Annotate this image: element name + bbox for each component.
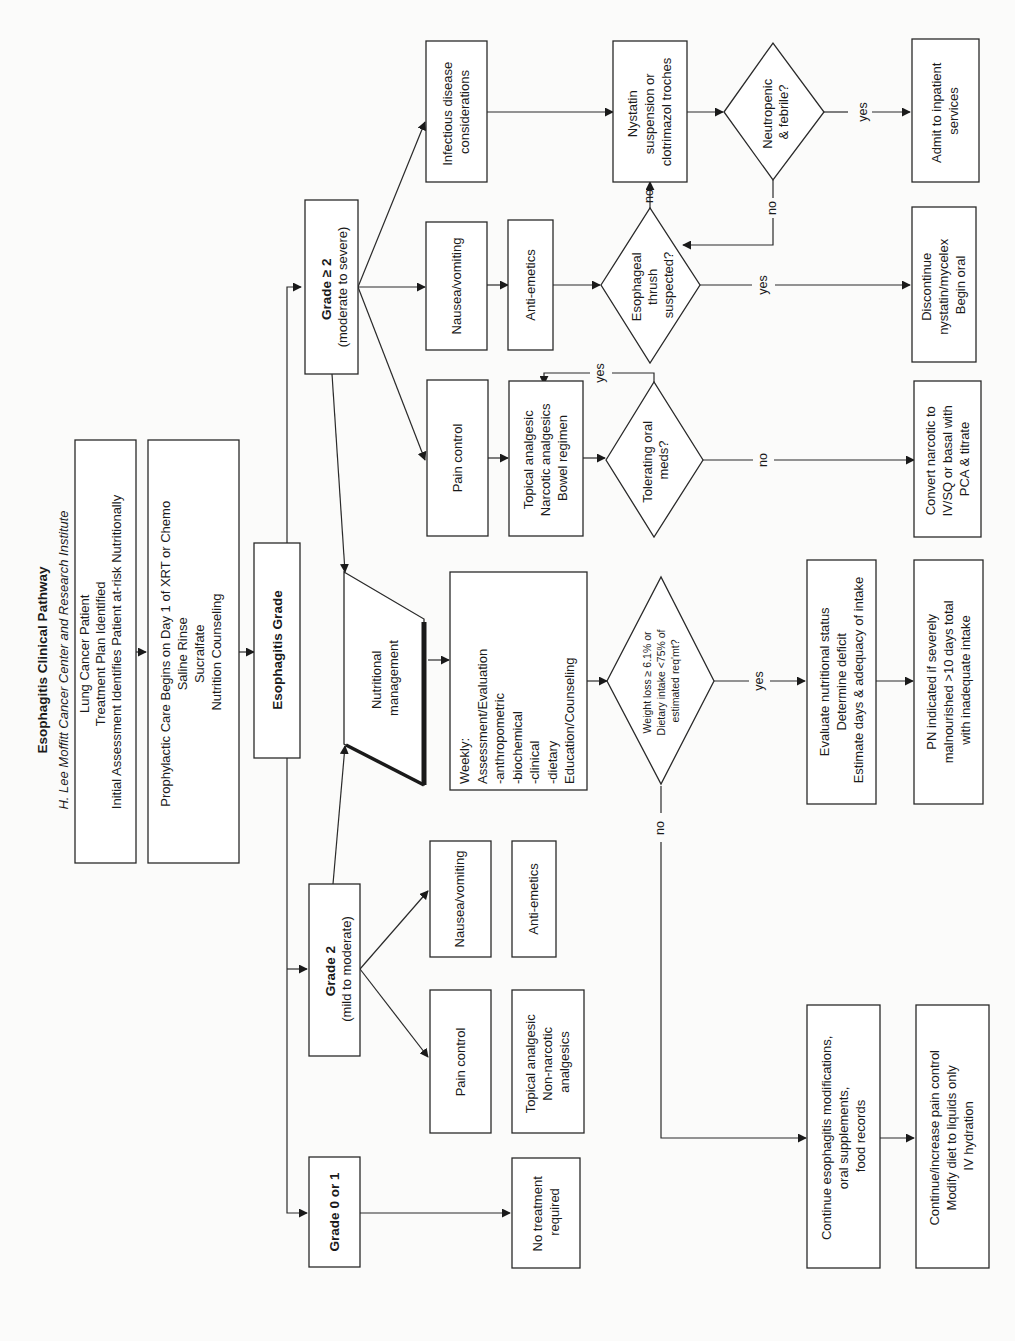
svg-text:Anti-emetics: Anti-emetics — [526, 863, 541, 935]
edge-label-neutropenic-yes: yes — [856, 102, 870, 121]
decision-weight-loss: Weight loss ≥ 6.1% or Dietary intake <75… — [607, 577, 714, 784]
node-nutritional-management: Nutritional management — [344, 572, 424, 785]
node-grade-severe: Grade ≥ 2 (moderate to severe) — [305, 200, 358, 374]
node-admit-inpatient: Admit to inpatient services — [912, 39, 979, 182]
node-evaluate-nutritional-status: Evaluate nutritional status Determine de… — [807, 560, 876, 804]
node-discontinue-nystatin: Discontinue nystatin/mycelex Begin oral — [912, 207, 976, 362]
edge-label-neutropenic-no: no — [765, 201, 779, 215]
node-pn-indicated: PN indicated if severely malnourished >1… — [914, 560, 983, 804]
node-analgesics-mild: Topical analgesic Non-narcotic analgesic… — [512, 990, 584, 1133]
svg-text:Grade 0 or 1: Grade 0 or 1 — [327, 1172, 342, 1251]
node-grade-mild: Grade 2 (mild to moderate) — [309, 884, 360, 1056]
svg-text:Pain control: Pain control — [453, 1028, 468, 1097]
node-pain-mild: Pain control — [430, 990, 491, 1133]
edge-label-weight-yes: yes — [752, 671, 766, 690]
svg-text:Pain control: Pain control — [450, 424, 465, 493]
svg-text:Neutropenic & febrile?: Neutropenic & febrile? — [760, 75, 791, 149]
decision-thrush: Esophageal thrush suspected? — [601, 208, 700, 363]
node-no-treatment: No treatment required — [512, 1158, 580, 1268]
pathway-header: Esophagitis Clinical Pathway H. Lee Moff… — [35, 510, 71, 809]
edge-label-thrush-no: no — [642, 189, 656, 203]
node-esophagitis-grade: Esophagitis Grade — [254, 543, 300, 758]
edge-label-weight-no: no — [653, 821, 667, 835]
node-antiemetics-mild: Anti-emetics — [512, 841, 556, 957]
page-subtitle: H. Lee Moffitt Cancer Center and Researc… — [56, 510, 71, 809]
node-analgesics-severe: Topical analgesic Narcotic analgesics Bo… — [509, 381, 583, 536]
node-nausea-severe: Nausea/vomiting — [426, 222, 487, 350]
svg-text:Nausea/vomiting: Nausea/vomiting — [449, 238, 464, 335]
edge-label-tolerating-yes: yes — [593, 363, 607, 382]
node-prophylactic-care: Prophylactic Care Begins on Day 1 of XRT… — [148, 440, 239, 863]
flowchart-canvas: Esophagitis Clinical Pathway H. Lee Moff… — [0, 0, 1015, 1341]
svg-text:Weight loss ≥ 6.1% or Di: Weight loss ≥ 6.1% or Dietary intake <75… — [641, 627, 681, 736]
node-infectious-disease: Infectious disease considerations — [426, 41, 487, 182]
page-title: Esophagitis Clinical Pathway — [35, 566, 50, 753]
node-convert-narcotic: Convert narcotic to IV/SQ or basal with … — [914, 381, 981, 537]
edge-label-tolerating-no: no — [756, 453, 770, 467]
decision-neutropenic: Neutropenic & febrile? — [724, 43, 824, 180]
svg-text:PN indicated if severely: PN indicated if severely malnourished >1… — [924, 597, 973, 764]
decision-tolerating-oral-meds: Tolerating oral meds? — [606, 382, 703, 537]
node-intake: Lung Cancer Patient Treatment Plan Ident… — [75, 440, 136, 863]
edge-label-thrush-yes: yes — [756, 275, 770, 294]
svg-text:Nausea/vomiting: Nausea/vomiting — [452, 851, 467, 948]
node-antiemetics-severe: Anti-emetics — [508, 220, 553, 350]
node-continue-pain-control: Continue/increase pain control Modify di… — [916, 1005, 989, 1268]
svg-text:Topical analgesic Narcot: Topical analgesic Narcotic analgesics Bo… — [521, 400, 570, 516]
node-weekly-assessment: Weekly: Assessment/Evaluation -anthropom… — [450, 572, 587, 790]
node-continue-modifications: Continue esophagitis modifications, oral… — [807, 1005, 880, 1268]
node-grade-none: Grade 0 or 1 — [309, 1157, 360, 1267]
node-nausea-mild: Nausea/vomiting — [430, 841, 491, 957]
svg-text:Anti-emetics: Anti-emetics — [523, 249, 538, 321]
node-nystatin: Nystatin suspension or clotrimazol troch… — [613, 41, 687, 182]
svg-text:Esophagitis Grade: Esophagitis Grade — [270, 590, 285, 710]
node-pain-severe: Pain control — [427, 380, 488, 536]
